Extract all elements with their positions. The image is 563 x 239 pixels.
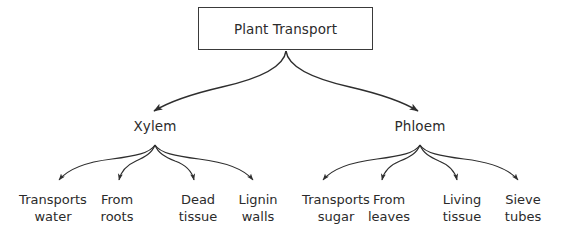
leaf-line-1: From (101, 192, 134, 209)
leaf-phloem-transports-sugar: Transports sugar (302, 192, 370, 225)
leaf-xylem-from-roots: From roots (101, 192, 134, 225)
leaf-line-1: Living (443, 192, 482, 209)
leaf-line-2: water (19, 209, 87, 226)
leaf-line-2: tissue (443, 209, 482, 226)
plant-transport-diagram: Plant Transport Xylem Phloem Transports … (0, 0, 563, 239)
leaf-phloem-living-tissue: Living tissue (443, 192, 482, 225)
connector-phloem-to-child-4 (420, 145, 518, 180)
leaf-line-1: Sieve (505, 192, 541, 209)
leaf-line-1: Dead (179, 192, 218, 209)
node-branch-phloem-label: Phloem (395, 118, 446, 134)
leaf-line-2: walls (238, 209, 277, 226)
leaf-line-2: tissue (179, 209, 218, 226)
node-branch-phloem: Phloem (395, 118, 446, 134)
leaf-line-2: tubes (505, 209, 541, 226)
leaf-xylem-transports-water: Transports water (19, 192, 87, 225)
leaf-line-1: Transports (19, 192, 87, 209)
connector-xylem-to-child-4 (155, 145, 253, 180)
connector-root-to-phloem (286, 51, 418, 111)
leaf-line-1: Lignin (238, 192, 277, 209)
connector-root-to-xylem (154, 51, 286, 111)
node-branch-xylem: Xylem (134, 118, 177, 134)
leaf-xylem-lignin-walls: Lignin walls (238, 192, 277, 225)
leaf-line-1: From (368, 192, 410, 209)
leaf-line-2: sugar (302, 209, 370, 226)
leaf-line-1: Transports (302, 192, 370, 209)
leaf-xylem-dead-tissue: Dead tissue (179, 192, 218, 225)
node-branch-xylem-label: Xylem (134, 118, 177, 134)
leaf-line-2: roots (101, 209, 134, 226)
connector-phloem-to-child-1 (323, 145, 420, 180)
connector-xylem-to-child-1 (59, 145, 155, 180)
leaf-phloem-sieve-tubes: Sieve tubes (505, 192, 541, 225)
leaf-line-2: leaves (368, 209, 410, 226)
node-root-plant-transport: Plant Transport (198, 7, 373, 50)
leaf-phloem-from-leaves: From leaves (368, 192, 410, 225)
node-root-label: Plant Transport (234, 21, 337, 37)
